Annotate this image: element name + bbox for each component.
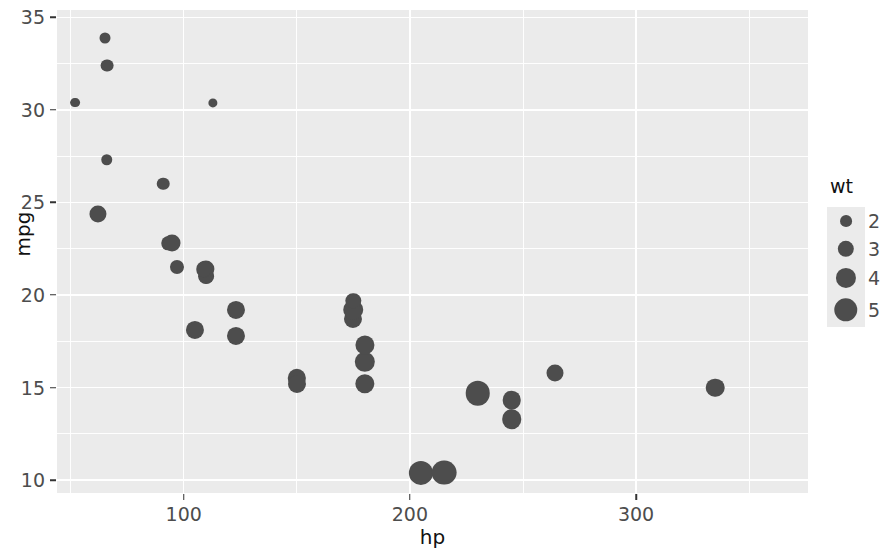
legend-key-dot <box>834 298 857 321</box>
data-point <box>409 461 433 485</box>
gridline-minor-horizontal <box>57 341 808 342</box>
gridline-minor-horizontal <box>57 156 808 157</box>
legend-key-label: 5 <box>868 299 880 321</box>
data-point <box>70 98 80 108</box>
x-tick-label: 300 <box>618 503 654 525</box>
legend-key <box>827 263 865 293</box>
data-point <box>208 98 217 107</box>
data-point <box>100 59 113 72</box>
data-point <box>355 335 374 354</box>
gridline-major-horizontal <box>57 17 808 19</box>
y-tick-mark <box>50 479 56 481</box>
plot-panel <box>57 10 808 493</box>
y-tick-label: 30 <box>21 99 45 121</box>
legend-key-label: 4 <box>868 267 880 289</box>
gridline-major-horizontal <box>57 294 808 296</box>
x-tick-label: 100 <box>166 503 202 525</box>
data-point <box>186 321 204 339</box>
data-point <box>157 178 170 191</box>
y-tick-mark <box>50 294 56 296</box>
x-axis-title: hp <box>57 525 808 549</box>
legend-key-dot <box>836 268 856 288</box>
gridline-major-vertical <box>409 10 411 493</box>
data-point <box>546 364 563 381</box>
y-tick-mark <box>50 109 56 111</box>
y-axis-title: mpg <box>11 184 35 284</box>
scatter-plot: 101520253035 100200300 hp mpg wt 2345 <box>0 0 887 549</box>
data-point <box>355 374 374 393</box>
data-point <box>502 409 522 429</box>
data-point <box>227 327 245 345</box>
data-point <box>170 260 184 274</box>
y-tick-label: 15 <box>21 377 45 399</box>
legend-key-dot <box>840 215 852 227</box>
gridline-major-horizontal <box>57 109 808 111</box>
legend-key-label: 2 <box>868 210 880 232</box>
data-point <box>99 32 110 43</box>
legend-key <box>827 293 865 326</box>
data-point <box>431 460 456 485</box>
data-point <box>89 205 106 222</box>
gridline-minor-vertical <box>296 10 297 493</box>
x-tick-mark <box>635 494 637 500</box>
gridline-major-vertical <box>635 10 637 493</box>
x-tick-mark <box>409 494 411 500</box>
legend-key <box>827 235 865 263</box>
data-point <box>706 378 725 397</box>
gridline-minor-horizontal <box>57 433 808 434</box>
y-tick-mark <box>50 387 56 389</box>
legend-key-label: 3 <box>868 238 880 260</box>
data-point <box>354 351 374 371</box>
y-tick-label: 20 <box>21 284 45 306</box>
data-point <box>465 381 490 406</box>
data-point <box>101 154 113 166</box>
gridline-minor-horizontal <box>57 63 808 64</box>
data-point <box>227 301 245 319</box>
legend-key-dot <box>838 241 854 257</box>
y-tick-mark <box>50 202 56 204</box>
y-tick-label: 35 <box>21 6 45 28</box>
gridline-minor-vertical <box>523 10 524 493</box>
gridline-minor-vertical <box>70 10 71 493</box>
x-tick-mark <box>183 494 185 500</box>
y-tick-label: 10 <box>21 469 45 491</box>
gridline-major-vertical <box>183 10 185 493</box>
gridline-minor-vertical <box>749 10 750 493</box>
data-point <box>288 375 306 393</box>
legend-key <box>827 207 865 235</box>
legend-title: wt <box>830 175 853 197</box>
gridline-major-horizontal <box>57 387 808 389</box>
data-point <box>164 235 181 252</box>
x-tick-label: 200 <box>392 503 428 525</box>
y-tick-mark <box>50 17 56 19</box>
data-point <box>502 391 521 410</box>
gridline-major-horizontal <box>57 202 808 204</box>
